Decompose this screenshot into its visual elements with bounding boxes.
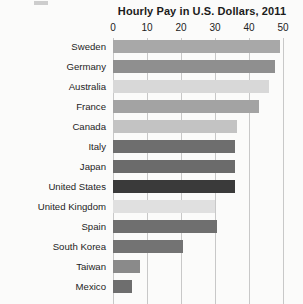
x-tick-label-0: 0: [98, 22, 128, 33]
bar-chart-figure: Hourly Pay in U.S. Dollars, 2011 0102030…: [0, 0, 303, 304]
bar-australia: [113, 80, 269, 93]
bar-united-kingdom: [113, 200, 215, 213]
category-label-united-states: United States: [0, 181, 106, 192]
category-label-mexico: Mexico: [0, 281, 106, 292]
category-label-germany: Germany: [0, 61, 106, 72]
x-tick-label-20: 20: [166, 22, 196, 33]
bar-japan: [113, 160, 235, 173]
bar-row: Japan: [0, 158, 303, 178]
bar-united-states: [113, 180, 235, 193]
category-label-japan: Japan: [0, 161, 106, 172]
bar-germany: [113, 60, 275, 73]
chart-title: Hourly Pay in U.S. Dollars, 2011: [112, 5, 292, 17]
bar-row: Italy: [0, 138, 303, 158]
category-label-taiwan: Taiwan: [0, 261, 106, 272]
x-axis-tick-labels: 01020304050: [0, 22, 303, 36]
bar-row: Canada: [0, 118, 303, 138]
bar-italy: [113, 140, 235, 153]
x-tick-label-30: 30: [200, 22, 230, 33]
category-label-france: France: [0, 101, 106, 112]
bar-south-korea: [113, 240, 183, 253]
bar-taiwan: [113, 260, 140, 273]
bar-row: Mexico: [0, 278, 303, 298]
bar-row: United States: [0, 178, 303, 198]
bar-row: Spain: [0, 218, 303, 238]
bar-row: France: [0, 98, 303, 118]
x-tick-label-50: 50: [268, 22, 298, 33]
bar-mexico: [113, 280, 132, 293]
scan-artifact: [34, 1, 48, 5]
category-label-south-korea: South Korea: [0, 241, 106, 252]
x-tick-label-10: 10: [132, 22, 162, 33]
category-label-italy: Italy: [0, 141, 106, 152]
x-tick-label-40: 40: [234, 22, 264, 33]
bar-row: United Kingdom: [0, 198, 303, 218]
bar-row: Sweden: [0, 38, 303, 58]
category-label-sweden: Sweden: [0, 41, 106, 52]
bar-canada: [113, 120, 237, 133]
category-label-canada: Canada: [0, 121, 106, 132]
category-label-united-kingdom: United Kingdom: [0, 201, 106, 212]
bar-row: South Korea: [0, 238, 303, 258]
bar-spain: [113, 220, 217, 233]
bar-row: Australia: [0, 78, 303, 98]
bar-france: [113, 100, 259, 113]
bar-row: Germany: [0, 58, 303, 78]
category-label-australia: Australia: [0, 81, 106, 92]
bar-sweden: [113, 40, 280, 53]
category-label-spain: Spain: [0, 221, 106, 232]
bar-row: Taiwan: [0, 258, 303, 278]
